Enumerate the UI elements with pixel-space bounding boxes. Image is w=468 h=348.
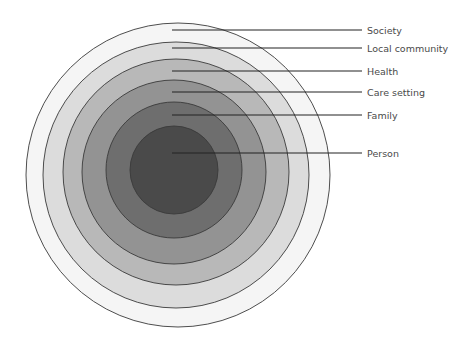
layer-labels: SocietyLocal communityHealthCare setting… [367, 25, 449, 159]
concentric-circles-diagram: SocietyLocal communityHealthCare setting… [0, 0, 468, 348]
label-local-community: Local community [367, 43, 449, 54]
circle-layers [26, 23, 330, 327]
label-person: Person [367, 148, 399, 159]
circle-person [130, 126, 218, 214]
label-care-setting: Care setting [367, 87, 425, 98]
label-society: Society [367, 25, 402, 36]
label-health: Health [367, 66, 398, 77]
label-family: Family [367, 110, 398, 121]
